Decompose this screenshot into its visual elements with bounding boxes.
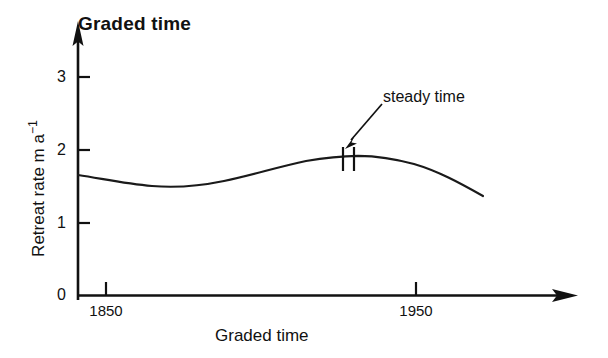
x-tick-label-1950: 1950 [386, 303, 446, 318]
y-axis-label: Retreat rate m a−1 [30, 109, 47, 269]
steady-time-leader-arrow [345, 104, 382, 149]
y-tick-label-3: 3 [44, 69, 66, 85]
y-tick-label-1: 1 [44, 215, 66, 231]
steady-time-arrow-shaft [351, 104, 382, 140]
x-tick-label-1850: 1850 [76, 303, 136, 318]
x-axis [77, 289, 578, 302]
y-axis [73, 21, 84, 300]
retreat-rate-curve [78, 156, 483, 196]
chart-title: Graded time [78, 14, 191, 33]
steady-time-band-marks [343, 147, 354, 171]
chart-figure: Graded time Retreat rate m a−1 Graded ti… [0, 0, 608, 358]
x-axis-ticks [106, 282, 416, 295]
y-axis-ticks [78, 77, 90, 223]
x-axis-label: Graded time [215, 327, 309, 344]
steady-time-arrowhead-icon [345, 136, 357, 149]
y-tick-label-2: 2 [44, 142, 66, 158]
y-axis-label-exponent: −1 [26, 120, 40, 134]
y-tick-label-0: 0 [44, 287, 66, 303]
annotation-steady-time-label: steady time [383, 89, 465, 105]
